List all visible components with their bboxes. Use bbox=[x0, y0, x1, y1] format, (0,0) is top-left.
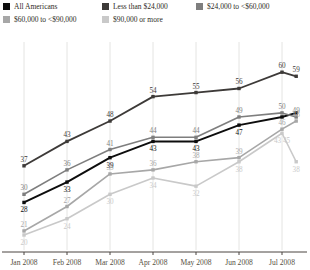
data-point bbox=[108, 193, 111, 196]
data-point bbox=[194, 136, 197, 139]
data-label: 41 bbox=[106, 140, 114, 148]
data-label: 33 bbox=[63, 186, 71, 194]
data-point bbox=[22, 233, 25, 236]
data-point bbox=[294, 160, 297, 163]
data-label: 37 bbox=[20, 156, 28, 164]
data-label: 32 bbox=[192, 190, 200, 198]
data-label: 48 bbox=[293, 111, 301, 119]
data-label: 27 bbox=[63, 197, 71, 205]
data-point bbox=[237, 123, 240, 126]
x-axis-label: Feb 2008 bbox=[53, 258, 82, 267]
data-point bbox=[237, 160, 240, 163]
data-label: 55 bbox=[192, 83, 200, 91]
data-label: 54 bbox=[149, 87, 157, 95]
data-point bbox=[237, 156, 240, 159]
data-point bbox=[22, 164, 25, 167]
data-label: 46 bbox=[278, 119, 286, 127]
data-label: 43 bbox=[63, 131, 71, 139]
x-axis-label: Mar 2008 bbox=[95, 258, 125, 267]
data-label: 30 bbox=[20, 184, 28, 192]
data-point bbox=[22, 229, 25, 232]
x-axis-label: May 2008 bbox=[180, 258, 211, 267]
data-label: 38 bbox=[293, 166, 301, 174]
data-point bbox=[151, 95, 154, 98]
data-point bbox=[151, 176, 154, 179]
data-point bbox=[280, 71, 283, 74]
data-point bbox=[294, 119, 297, 122]
data-label: 43 45 bbox=[274, 137, 291, 145]
data-point bbox=[151, 136, 154, 139]
data-point bbox=[65, 168, 68, 171]
data-point bbox=[65, 205, 68, 208]
data-label: 43 bbox=[149, 145, 157, 153]
data-label: 56 bbox=[235, 78, 243, 86]
data-point bbox=[108, 156, 111, 159]
data-label: 21 bbox=[20, 221, 28, 229]
data-label: 20 bbox=[20, 239, 28, 247]
data-label: 30 bbox=[106, 198, 114, 206]
data-label: 24 bbox=[63, 223, 71, 231]
data-point bbox=[294, 75, 297, 78]
x-axis-label: Jan 2008 bbox=[10, 258, 37, 267]
data-label: 35 bbox=[106, 164, 114, 172]
data-label: 47 bbox=[235, 129, 243, 137]
data-point bbox=[108, 148, 111, 151]
data-label: 34 bbox=[149, 182, 157, 190]
data-label: 50 bbox=[278, 103, 286, 111]
data-point bbox=[65, 217, 68, 220]
data-label: 44 bbox=[149, 127, 157, 135]
data-point bbox=[280, 115, 283, 118]
data-point bbox=[237, 87, 240, 90]
data-label: 38 bbox=[192, 152, 200, 160]
data-point bbox=[280, 132, 283, 135]
x-axis-label: Jun 2008 bbox=[225, 258, 253, 267]
data-label: 60 bbox=[278, 62, 286, 70]
data-label: 36 bbox=[149, 160, 157, 168]
data-point bbox=[194, 160, 197, 163]
data-label: 39 bbox=[235, 148, 243, 156]
data-point bbox=[108, 119, 111, 122]
data-label: 48 bbox=[106, 111, 114, 119]
data-point bbox=[194, 184, 197, 187]
data-label: 44 bbox=[192, 127, 200, 135]
data-point bbox=[194, 140, 197, 143]
data-point bbox=[237, 115, 240, 118]
data-point bbox=[151, 168, 154, 171]
data-label: 49 bbox=[235, 107, 243, 115]
x-axis-label: Apr 2008 bbox=[139, 258, 168, 267]
data-point bbox=[108, 172, 111, 175]
data-point bbox=[151, 140, 154, 143]
data-point bbox=[280, 111, 283, 114]
data-point bbox=[280, 127, 283, 130]
data-point bbox=[22, 201, 25, 204]
income-discomfort-line-chart: All AmericansLess than $24,000$24,000 to… bbox=[0, 0, 310, 270]
data-label: 28 bbox=[20, 206, 28, 214]
data-point bbox=[65, 180, 68, 183]
data-label: 36 bbox=[63, 160, 71, 168]
data-point bbox=[65, 140, 68, 143]
data-point bbox=[22, 193, 25, 196]
data-label: 59 bbox=[293, 66, 301, 74]
data-label: 38 bbox=[235, 166, 243, 174]
data-point bbox=[194, 91, 197, 94]
plot-area: Jan 2008Feb 2008Mar 2008Apr 2008May 2008… bbox=[0, 0, 310, 270]
x-axis-label: Jul 2008 bbox=[269, 258, 295, 267]
